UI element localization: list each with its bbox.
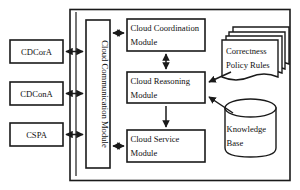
cloud-service-module-label-line2: Module: [131, 148, 158, 158]
external-agent-label: CSPA: [26, 130, 48, 140]
cloud-reasoning-module-label-line1: Cloud Reasoning: [131, 76, 191, 86]
knowledge-base-label-line2: Base: [227, 138, 244, 148]
cloud-service-module[interactable]: Cloud Service Module: [127, 130, 205, 162]
cloud-coordination-module[interactable]: Cloud Coordination Module: [127, 19, 205, 51]
external-agent-cdcona[interactable]: CDConA: [10, 82, 63, 105]
external-agent-cspa[interactable]: CSPA: [10, 123, 63, 146]
cloud-communication-module-label: Cloud Communication Module: [100, 40, 110, 148]
policy-rules-label-line1: Correctness: [226, 46, 267, 56]
external-agent-cdcora[interactable]: CDCorA: [10, 40, 63, 63]
cloud-reasoning-module-label-line2: Module: [131, 90, 158, 100]
cloud-service-module-label-line1: Cloud Service: [131, 134, 180, 144]
knowledge-base-label-line1: Knowledge: [227, 124, 267, 134]
cloud-reasoning-module[interactable]: Cloud Reasoning Module: [127, 72, 205, 103]
external-agent-label: CDConA: [20, 89, 53, 99]
architecture-diagram: CDCorA CDConA CSPA Cloud Communication M…: [0, 0, 300, 190]
knowledge-base-top: [225, 99, 276, 117]
cloud-coordination-module-label-line1: Cloud Coordination: [131, 23, 200, 33]
correctness-policy-rules[interactable]: Correctness Policy Rules: [222, 27, 289, 80]
cloud-communication-module[interactable]: Cloud Communication Module: [86, 20, 110, 168]
policy-rules-label-line2: Policy Rules: [226, 60, 270, 70]
knowledge-base[interactable]: Knowledge Base: [225, 99, 276, 157]
diagram-canvas: CDCorA CDConA CSPA Cloud Communication M…: [0, 0, 300, 190]
cloud-coordination-module-label-line2: Module: [131, 37, 158, 47]
external-agent-label: CDCorA: [21, 47, 53, 57]
